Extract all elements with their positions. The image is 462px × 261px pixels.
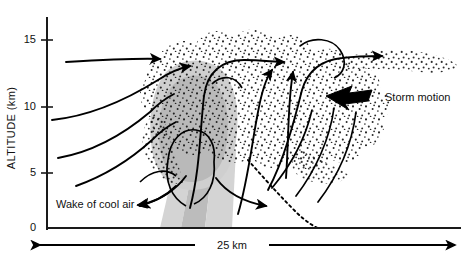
y-tick-label-5: 5 xyxy=(30,166,36,178)
upper-level-inflow-arrow xyxy=(66,59,160,62)
y-tick-label-15: 15 xyxy=(24,33,36,45)
wake-label: Wake of cool air xyxy=(56,198,135,210)
y-axis-title: ALTITUDE (km) xyxy=(5,87,17,170)
storm-cross-section-figure: 15 10 5 0 ALTITUDE (km) 25 km Storm moti… xyxy=(0,0,462,261)
storm-cloud-group xyxy=(140,29,458,228)
y-tick-label-0: 0 xyxy=(30,221,36,233)
y-tick-label-10: 10 xyxy=(24,100,36,112)
scale-bar-label: 25 km xyxy=(217,239,247,251)
wake-annotation: Wake of cool air xyxy=(56,186,176,210)
diagram-canvas: 15 10 5 0 ALTITUDE (km) 25 km Storm moti… xyxy=(0,0,462,261)
storm-motion-label: Storm motion xyxy=(385,91,450,103)
scale-bar-group: 25 km xyxy=(40,239,455,251)
